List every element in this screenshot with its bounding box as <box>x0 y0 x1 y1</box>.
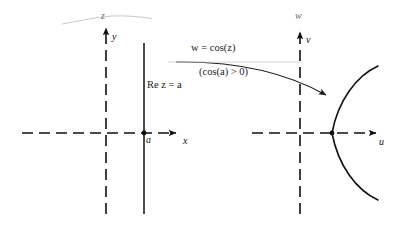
x-axis-label: x <box>183 136 187 146</box>
w-plane-label: w <box>295 11 302 21</box>
re-z-equals-a-label: Re z = a <box>147 80 182 91</box>
u-axis-label: u <box>379 137 384 147</box>
w-plane-group <box>252 32 378 214</box>
v-axis-label: v <box>306 35 310 45</box>
complex-mapping-figure: z y x a Re z = a w = cos(z) (cos(a) > 0)… <box>0 0 400 237</box>
mapping-equation: w = cos(z) <box>191 43 235 54</box>
z-plane-label: z <box>101 11 105 21</box>
z-label-rule <box>62 16 152 24</box>
point-a-label: a <box>146 135 151 145</box>
z-plane-group <box>22 16 176 214</box>
mapping-condition: (cos(a) > 0) <box>199 67 248 78</box>
curve-vertex-marker <box>330 131 335 136</box>
y-axis-label: y <box>112 32 116 42</box>
figure-canvas <box>0 0 400 237</box>
